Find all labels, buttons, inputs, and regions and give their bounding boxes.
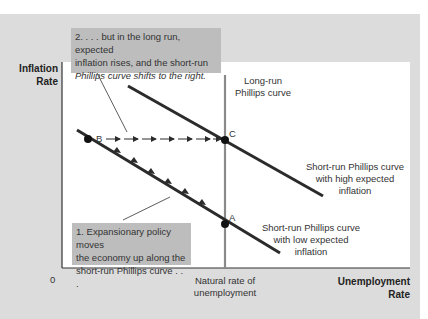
point-b-label: B [96, 133, 102, 145]
srpc-high-label: Short-run Phillips curve with high expec… [300, 161, 410, 197]
annotation-step1: 1. Expansionary policy moves the economy… [72, 223, 191, 265]
srpc-high-label-line1: Short-run Phillips curve [300, 161, 410, 173]
annotation-step2-line2: inflation rises, and the short-run [75, 56, 217, 69]
srpc-low-label-line1: Short-run Phillips curve [256, 222, 366, 234]
x-axis-label: Unemployment Rate [310, 275, 410, 301]
x-axis-label-line2: Rate [310, 288, 410, 301]
lrpc-label-line1: Long-run [228, 75, 298, 87]
srpc-low-label-line3: inflation [256, 246, 366, 258]
origin-label: 0 [50, 274, 55, 286]
y-axis-label: Inflation Rate [10, 62, 58, 88]
leader-line-step1 [123, 197, 170, 220]
x-axis-label-line1: Unemployment [310, 275, 410, 288]
y-axis-label-line2: Rate [10, 75, 58, 88]
srpc-high-label-line2: with high expected [300, 173, 410, 185]
y-axis-label-line1: Inflation [10, 62, 58, 75]
srpc-high-label-line3: inflation [300, 185, 410, 197]
point-b [84, 135, 92, 143]
annotation-step2: 2. . . . but in the long run, expected i… [71, 28, 221, 73]
annotation-step1-line2: the economy up along the [76, 251, 187, 264]
point-a [221, 220, 229, 228]
point-c [221, 136, 229, 144]
lrpc-label: Long-run Phillips curve [228, 75, 298, 99]
natural-rate-label: Natural rate of unemployment [180, 275, 270, 299]
natural-rate-line2: unemployment [180, 287, 270, 299]
srpc-low-label: Short-run Phillips curve with low expect… [256, 222, 366, 258]
annotation-step2-line1: 2. . . . but in the long run, expected [75, 30, 217, 56]
movement-arrows-along-srpc [113, 147, 206, 205]
annotation-step1-line1: 1. Expansionary policy moves [76, 225, 187, 251]
annotation-step2-line3: Phillips curve shifts to the right. [75, 69, 217, 82]
point-c-label: C [229, 128, 236, 140]
srpc-low-label-line2: with low expected [256, 234, 366, 246]
lrpc-label-line2: Phillips curve [228, 87, 298, 99]
annotation-step1-line3: short-run Phillips curve . . . [76, 264, 187, 290]
natural-rate-line1: Natural rate of [180, 275, 270, 287]
point-a-label: A [229, 212, 235, 224]
